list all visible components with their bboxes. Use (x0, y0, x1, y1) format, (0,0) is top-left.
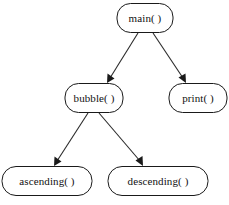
arrowhead-icon (54, 157, 62, 167)
node-print[interactable] (169, 84, 227, 113)
arrowhead-icon (179, 74, 187, 84)
node-bubble[interactable] (65, 84, 123, 113)
diagram-canvas: main( ) bubble( ) print( ) ascending( ) … (0, 0, 229, 205)
node-ascending[interactable] (2, 167, 92, 196)
node-descending[interactable] (108, 167, 208, 196)
edge-main-to-bubble (107, 33, 138, 83)
node-group (2, 4, 227, 196)
arrowhead-icon (107, 74, 115, 84)
edge-main-to-print (153, 33, 186, 83)
edge-bubble-to-descending (99, 113, 143, 166)
node-main[interactable] (117, 4, 173, 33)
diagram-graphics (0, 0, 229, 205)
edge-bubble-to-ascending (54, 113, 88, 166)
